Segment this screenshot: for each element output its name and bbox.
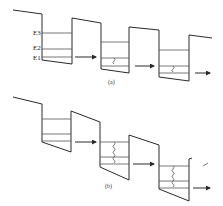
label-e3: E3 [33,29,41,37]
relaxation-squiggle-icon [172,166,174,187]
transition-squiggle-icon [113,58,115,64]
partial-tick [203,163,208,166]
quantum-cascade-diagram: E3 E2 E1 (a) (b) [0,0,223,206]
caption-a: (a) [108,79,115,86]
panel-a: E3 E2 E1 (a) [13,10,212,86]
relaxation-squiggle-icon [113,142,115,163]
band-profile-b [13,97,192,201]
label-e1: E1 [33,54,41,62]
band-profile-a [13,10,212,81]
panel-b: (b) [13,97,210,201]
label-e2: E2 [33,44,41,52]
transition-squiggle-icon [172,66,174,72]
caption-b: (b) [105,183,112,190]
